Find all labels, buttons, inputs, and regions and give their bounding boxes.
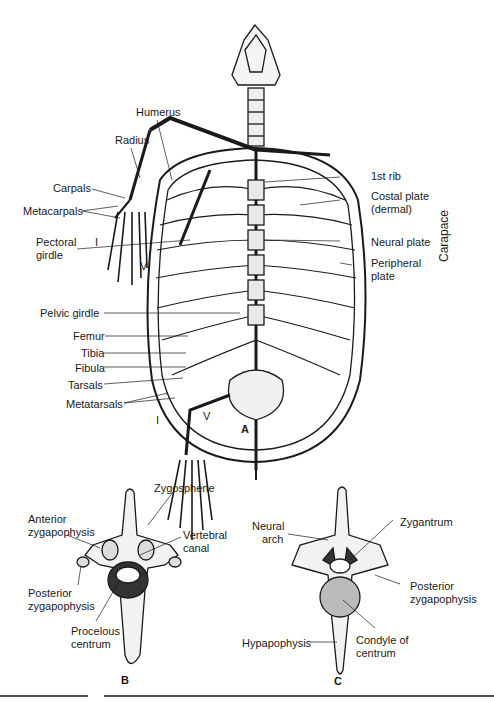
label-neural-plate: Neural plate — [371, 236, 430, 249]
label-tarsals: Tarsals — [68, 379, 103, 392]
label-peripheral-line1: Peripheral — [371, 257, 421, 270]
label-costal-line2: (dermal) — [371, 203, 429, 216]
label-digit-v-hand: V — [140, 260, 147, 273]
label-carapace: Carapace — [437, 210, 451, 262]
label-peripheral-plate: Peripheral plate — [371, 257, 421, 283]
label-humerus: Humerus — [136, 106, 181, 119]
label-neural-arch-line2: arch — [252, 533, 284, 546]
label-peripheral-line2: plate — [371, 270, 421, 283]
label-metatarsals: Metatarsals — [66, 398, 123, 411]
label-carpals: Carpals — [53, 182, 91, 195]
label-procelous-centrum: Procelous centrum — [71, 625, 120, 651]
label-zygantrum: Zygantrum — [400, 516, 453, 529]
label-posterior-b-line2: zygapophysis — [28, 600, 95, 613]
label-vertebral-canal: Vertebral canal — [183, 529, 227, 555]
label-costal-plate: Costal plate (dermal) — [371, 190, 429, 216]
label-posterior-c-line2: zygapophysis — [410, 593, 477, 606]
label-pectoral-line2: girdle — [36, 249, 76, 262]
label-posterior-c-line1: Posterior — [410, 580, 477, 593]
label-costal-line1: Costal plate — [371, 190, 429, 203]
label-pelvic-girdle: Pelvic girdle — [40, 307, 99, 320]
label-digit-i-hand: I — [95, 236, 98, 249]
label-posterior-zygapophysis-b: Posterior zygapophysis — [28, 587, 95, 613]
label-hypapophysis: Hypapophysis — [242, 637, 311, 650]
label-pectoral-line1: Pectoral — [36, 236, 76, 249]
label-digit-v-foot: V — [203, 410, 210, 423]
label-posterior-b-line1: Posterior — [28, 587, 95, 600]
leader-lines-a — [77, 120, 352, 403]
label-zygosphene: Zygosphene — [154, 482, 215, 495]
label-radius: Radius — [115, 134, 149, 147]
label-anterior-zygapophysis: Anterior zygapophysis — [28, 513, 95, 539]
label-metacarpals: Metacarpals — [23, 205, 83, 218]
label-anterior-line1: Anterior — [28, 513, 95, 526]
label-fibula: Fibula — [75, 362, 105, 375]
label-condyle-of-centrum: Condyle of centrum — [356, 634, 409, 660]
label-digit-i-foot: I — [156, 414, 159, 427]
turtle-skeleton — [108, 25, 366, 540]
label-condyle-line1: Condyle of — [356, 634, 409, 647]
bottom-rule-right — [104, 695, 494, 697]
label-vertebral-line2: canal — [183, 542, 227, 555]
label-neural-arch: Neural arch — [252, 520, 284, 546]
label-tibia: Tibia — [81, 347, 104, 360]
figure-letter-b: B — [121, 674, 129, 686]
figure-letter-c: C — [334, 675, 342, 687]
label-procelous-line2: centrum — [71, 638, 120, 651]
label-pectoral-girdle: Pectoral girdle — [36, 236, 76, 262]
label-femur: Femur — [73, 330, 105, 343]
label-anterior-line2: zygapophysis — [28, 526, 95, 539]
bottom-rule-left — [0, 695, 88, 697]
label-neural-arch-line1: Neural — [252, 520, 284, 533]
label-condyle-line2: centrum — [356, 647, 409, 660]
label-procelous-line1: Procelous — [71, 625, 120, 638]
label-posterior-zygapophysis-c: Posterior zygapophysis — [410, 580, 477, 606]
label-first-rib: 1st rib — [371, 170, 401, 183]
label-vertebral-line1: Vertebral — [183, 529, 227, 542]
figure-letter-a: A — [241, 423, 249, 435]
